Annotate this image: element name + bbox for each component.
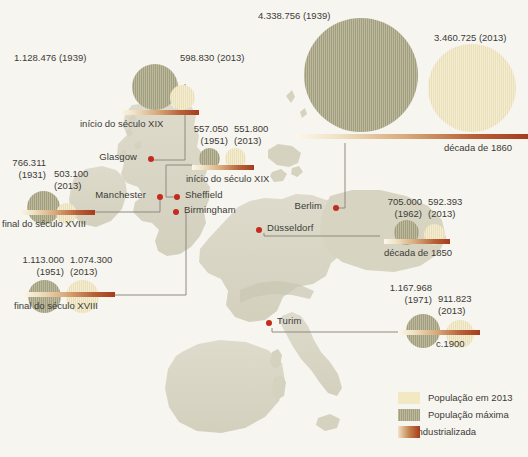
turim-era-label: c.1900 <box>436 338 465 349</box>
birmingham-current-year: (2013) <box>70 266 112 278</box>
landmass-iberia <box>165 340 285 433</box>
manchester-era-label: final do século XVIII <box>2 218 86 229</box>
dusseldorf-peak-year: (1962) <box>380 208 422 220</box>
manchester-current-number: 503.100 <box>54 168 88 179</box>
londres-era-label: década de 1860 <box>444 142 512 153</box>
dusseldorf-peak-value: 705.000 (1962) <box>380 196 422 219</box>
londres-current-value: 3.460.725 (2013) <box>434 32 506 44</box>
sheffield-peak-number: 557.050 <box>194 123 228 134</box>
birmingham-peak-year: (1951) <box>14 266 64 278</box>
city-label-dusseldorf: Düsseldorf <box>267 222 313 233</box>
turim-peak-value: 1.167.968 (1971) <box>380 282 432 305</box>
legend-label-peak-population: População máxima <box>428 409 509 420</box>
londres-peak-value: 4.338.756 (1939) <box>258 10 330 22</box>
marker-dot-dusseldorf <box>256 227 262 233</box>
marker-dot-sheffield <box>174 194 180 200</box>
dusseldorf-era-bar <box>384 239 450 244</box>
turim-current-year: (2013) <box>438 305 472 317</box>
birmingham-era-bar <box>22 292 115 297</box>
marker-dot-birmingham <box>173 209 179 215</box>
turim-current-number: 911.823 <box>438 293 472 304</box>
glasgow-peak-value: 1.128.476 (1939) <box>14 52 86 64</box>
manchester-peak-number: 766.311 <box>12 157 46 168</box>
dusseldorf-current-value: 592.393 (2013) <box>428 196 462 219</box>
glasgow-era-bar <box>120 110 199 115</box>
manchester-era-bar <box>19 210 95 215</box>
legend-label-current-population: População em 2013 <box>428 392 513 403</box>
birmingham-peak-number: 1.113.000 <box>22 254 64 265</box>
londres-era-bar <box>296 134 528 139</box>
city-label-birmingham: Birmingham <box>184 204 236 215</box>
legend-row-current: População em 2013 <box>398 390 513 405</box>
city-label-turim: Turim <box>277 315 301 326</box>
dusseldorf-peak-number: 705.000 <box>388 196 422 207</box>
dusseldorf-current-year: (2013) <box>428 208 462 220</box>
birmingham-current-value: 1.074.300 (2013) <box>70 254 112 277</box>
manchester-peak-year: (1931) <box>6 169 46 181</box>
londres-current-circle <box>428 44 516 132</box>
legend-row-era: Era industrializada <box>398 424 513 439</box>
glasgow-era-label: início do século XIX <box>80 118 163 129</box>
sheffield-current-value: 551.800 (2013) <box>234 123 268 146</box>
manchester-current-year: (2013) <box>54 180 88 192</box>
marker-dot-berlim <box>333 205 339 211</box>
marker-dot-manchester <box>157 194 163 200</box>
birmingham-current-number: 1.074.300 <box>70 254 112 265</box>
legend-swatch-peak-population <box>398 409 420 421</box>
legend-row-peak: População máxima <box>398 407 513 422</box>
sheffield-peak-year: (1951) <box>186 135 228 147</box>
dusseldorf-era-label: década de 1850 <box>384 247 452 258</box>
sheffield-peak-value: 557.050 (1951) <box>186 123 228 146</box>
city-label-manchester: Manchester <box>95 189 146 200</box>
manchester-peak-value: 766.311 (1931) <box>6 157 46 180</box>
marker-dot-glasgow <box>148 156 154 162</box>
legend-swatch-industrial-era <box>398 426 420 438</box>
legend-swatch-current-population <box>398 392 420 404</box>
turim-peak-year: (1971) <box>380 294 432 306</box>
londres-peak-circle <box>304 18 418 132</box>
city-label-sheffield: Sheffield <box>185 189 223 200</box>
glasgow-current-circle <box>170 85 195 110</box>
turim-era-bar <box>398 330 480 335</box>
sheffield-current-number: 551.800 <box>234 123 268 134</box>
turim-peak-number: 1.167.968 <box>390 282 432 293</box>
marker-dot-turim <box>266 320 272 326</box>
sheffield-era-bar <box>192 165 254 170</box>
glasgow-current-value: 598.830 (2013) <box>180 52 244 64</box>
birmingham-peak-value: 1.113.000 (1951) <box>14 254 64 277</box>
sheffield-current-year: (2013) <box>234 135 268 147</box>
infographic-map: Glasgow Manchester Sheffield Birmingham … <box>0 0 528 457</box>
sheffield-era-label: início do século XIX <box>186 173 269 184</box>
city-label-berlim: Berlim <box>294 200 322 211</box>
city-label-glasgow: Glasgow <box>99 151 137 162</box>
legend: População em 2013 População máxima Era i… <box>398 390 513 441</box>
landmass-sicily <box>316 414 340 431</box>
manchester-current-value: 503.100 (2013) <box>54 168 88 191</box>
birmingham-era-label: final do século XVIII <box>14 300 98 311</box>
dusseldorf-current-number: 592.393 <box>428 196 462 207</box>
turim-current-value: 911.823 (2013) <box>438 293 472 316</box>
